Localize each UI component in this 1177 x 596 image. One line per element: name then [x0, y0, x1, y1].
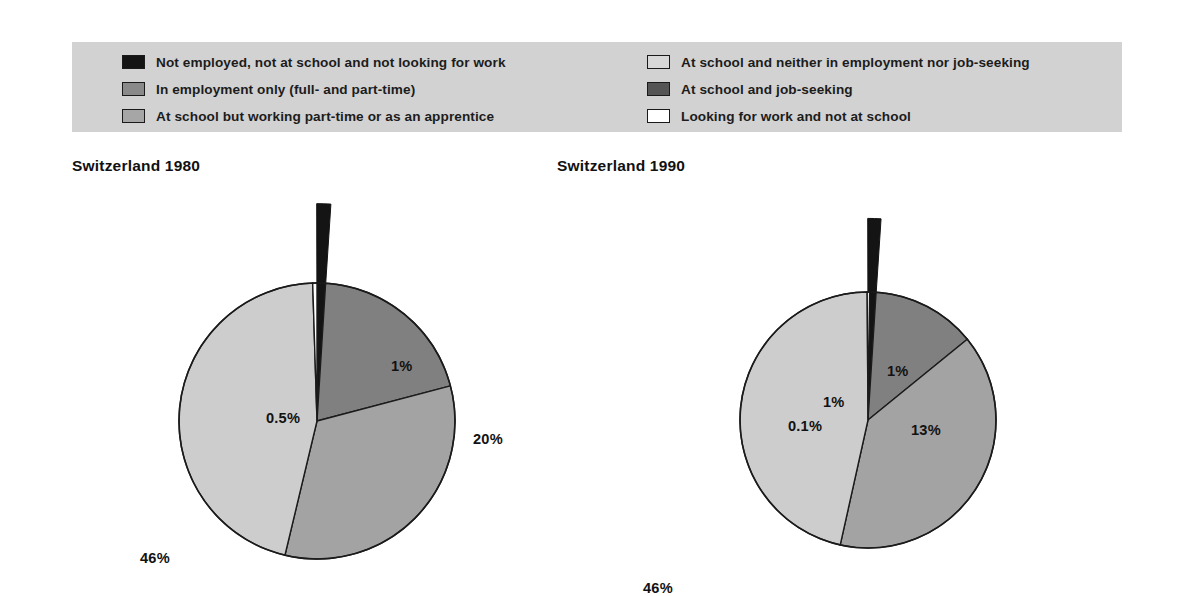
legend-item-in-employment: In employment only (full- and part-time)	[122, 76, 506, 102]
legend-swatch-looking-for-work	[647, 109, 670, 123]
legend-label-in-employment: In employment only (full- and part-time)	[156, 82, 415, 97]
pie-label-1990-white: 0.1%	[788, 418, 822, 434]
legend-column-right: At school and neither in employment nor …	[647, 49, 1030, 130]
pie-wrap-1990: 1% 1% 0.1% 13% 39% 46%	[545, 150, 1105, 590]
pie-label-1980-dark: 20%	[473, 431, 503, 447]
legend-swatch-school-working	[122, 109, 145, 123]
chart-switzerland-1990: Switzerland 1990 1% 1% 0.1% 13% 39% 46%	[545, 150, 1105, 590]
pie-svg-1990	[545, 150, 1105, 590]
pie-label-1980-white: 0.5%	[266, 410, 300, 426]
legend-item-school-jobseeking: At school and job-seeking	[647, 76, 1030, 102]
pie-wrap-1980: 1% 0.5% 20% 33% 46%	[60, 150, 620, 590]
pie-label-1990-light: 46%	[643, 580, 673, 596]
legend-panel: Not employed, not at school and not look…	[72, 42, 1122, 132]
legend-label-school-jobseeking: At school and job-seeking	[681, 82, 853, 97]
pie-svg-1980	[60, 150, 620, 590]
pie-label-1990-black: 1%	[887, 363, 909, 379]
legend-column-left: Not employed, not at school and not look…	[122, 49, 506, 130]
chart-switzerland-1980: Switzerland 1980 1% 0.5% 20% 33% 46%	[60, 150, 620, 590]
pie-label-1990-white-upper: 1%	[823, 394, 845, 410]
legend-swatch-school-jobseeking	[647, 82, 670, 96]
legend-swatch-not-employed	[122, 55, 145, 69]
legend-item-looking-for-work: Looking for work and not at school	[647, 103, 1030, 129]
pie-label-1980-black: 1%	[391, 358, 413, 374]
legend-label-not-employed: Not employed, not at school and not look…	[156, 55, 506, 70]
legend-label-looking-for-work: Looking for work and not at school	[681, 109, 911, 124]
legend-item-school-working: At school but working part-time or as an…	[122, 103, 506, 129]
pie-label-1980-light: 46%	[140, 550, 170, 566]
pie-label-1990-dark: 13%	[911, 422, 941, 438]
legend-label-school-working: At school but working part-time or as an…	[156, 109, 494, 124]
legend-item-not-employed: Not employed, not at school and not look…	[122, 49, 506, 75]
legend-swatch-school-neither	[647, 55, 670, 69]
legend-label-school-neither: At school and neither in employment nor …	[681, 55, 1030, 70]
legend-item-school-neither: At school and neither in employment nor …	[647, 49, 1030, 75]
legend-swatch-in-employment	[122, 82, 145, 96]
